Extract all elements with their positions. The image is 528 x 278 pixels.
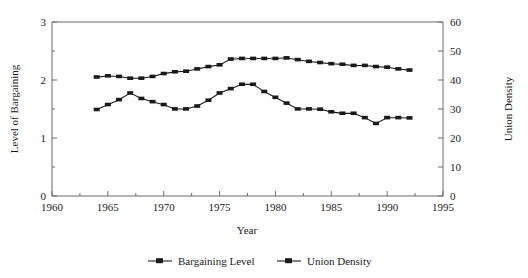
x-tick-label: 1960 [41,201,64,213]
data-point-marker [328,110,334,114]
data-point-marker [362,116,368,120]
data-point-marker [105,103,111,107]
data-point-marker [194,67,200,71]
y-axis-left-title: Level of Bargaining [8,64,20,153]
x-tick-label: 1995 [432,201,455,213]
data-point-marker [194,104,200,108]
data-point-marker [328,62,334,66]
data-point-marker [205,65,211,69]
data-point-marker [295,58,301,62]
legend-swatch-marker-2 [285,258,292,263]
data-point-marker [317,61,323,65]
data-point-marker [150,100,156,104]
x-tick-label: 1975 [209,201,232,213]
line-chart-canvas: 19601965197019751980198519901995 0123 01… [0,0,528,278]
data-point-marker [172,70,178,74]
data-point-marker [306,60,312,64]
y2-tick-label: 50 [450,45,462,57]
data-point-marker [295,107,301,111]
data-point-marker [362,64,368,68]
data-point-marker [261,57,267,61]
data-point-marker [339,111,345,115]
y-tick-label: 3 [41,16,47,28]
data-point-marker [272,57,278,61]
data-point-marker [395,116,401,120]
y-axis-right-ticks: 0102030405060 [438,16,462,202]
data-point-marker [384,116,390,120]
x-tick-label: 1970 [153,201,176,213]
data-point-marker [138,97,144,101]
data-point-marker [406,116,412,120]
x-tick-label: 1990 [376,201,399,213]
legend-label-bargaining-level: Bargaining Level [178,255,254,267]
y-axis-right-title: Union Density [502,76,514,141]
y2-tick-label: 0 [450,190,456,202]
legend-item-union-density: Union Density [277,255,372,267]
data-point-marker [161,72,167,76]
series-layer [94,56,413,125]
plot-frame [52,22,443,196]
data-point-marker [183,69,189,73]
data-point-marker [116,75,122,79]
data-point-marker [339,62,345,66]
y-tick-label: 2 [41,74,47,86]
data-point-marker [351,111,357,115]
x-tick-label: 1985 [320,201,343,213]
data-point-marker [217,91,223,95]
data-point-marker [94,75,100,79]
x-axis-ticks: 19601965197019751980198519901995 [41,191,455,213]
data-point-marker [373,65,379,69]
legend-item-bargaining-level: Bargaining Level [148,255,254,267]
chart-legend: Bargaining Level Union Density [148,255,372,267]
data-point-marker [239,57,245,61]
data-point-marker [272,96,278,100]
y2-tick-label: 40 [450,74,462,86]
x-tick-label: 1980 [264,201,287,213]
data-point-marker [239,82,245,86]
data-point-marker [94,108,100,112]
data-point-marker [306,107,312,111]
data-point-marker [228,57,234,61]
y2-tick-label: 10 [450,161,462,173]
data-point-marker [150,75,156,79]
data-point-marker [261,90,267,94]
data-point-marker [373,122,379,126]
data-point-marker [395,67,401,71]
data-point-marker [384,65,390,69]
data-point-marker [250,82,256,86]
data-point-marker [284,101,290,105]
data-point-marker [228,87,234,91]
legend-swatch-marker [156,258,163,263]
data-point-marker [116,98,122,102]
data-point-marker [105,74,111,78]
y-tick-label: 1 [41,132,47,144]
data-point-marker [138,76,144,80]
data-point-marker [351,64,357,68]
data-point-marker [406,68,412,72]
legend-label-union-density: Union Density [307,255,372,267]
data-point-marker [127,76,133,80]
data-point-marker [127,91,133,95]
y2-tick-label: 20 [450,132,462,144]
series-line [97,58,410,78]
data-point-marker [161,103,167,107]
series-bargaining-level [94,56,413,80]
chart-figure: 19601965197019751980198519901995 0123 01… [0,0,528,278]
data-point-marker [217,63,223,67]
y2-tick-label: 60 [450,16,462,28]
y-axis-left-ticks: 0123 [41,16,58,202]
x-axis-title: Year [237,224,258,236]
data-point-marker [284,56,290,60]
y-tick-label: 0 [41,190,47,202]
x-tick-label: 1965 [97,201,120,213]
series-union-density [94,82,413,125]
data-point-marker [172,107,178,111]
data-point-marker [317,107,323,111]
data-point-marker [183,107,189,111]
data-point-marker [250,57,256,61]
y2-tick-label: 30 [450,103,462,115]
data-point-marker [205,98,211,102]
